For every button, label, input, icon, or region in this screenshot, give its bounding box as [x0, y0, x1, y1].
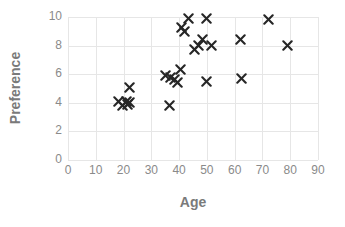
gridline-vertical — [68, 17, 69, 160]
x-axis-tick-label: 80 — [275, 163, 305, 177]
gridline-vertical — [262, 17, 263, 160]
data-point-marker — [235, 34, 246, 45]
data-point-marker — [183, 13, 194, 24]
y-axis-tick-label: 0 — [30, 152, 62, 166]
data-point-marker — [165, 72, 176, 83]
gridline-horizontal — [68, 17, 318, 18]
x-axis-tick-label: 90 — [303, 163, 333, 177]
data-point-marker — [113, 96, 124, 107]
x-axis-tick-label: 60 — [220, 163, 250, 177]
y-axis-tick-label: 10 — [30, 9, 62, 23]
gridline-vertical — [151, 17, 152, 160]
y-axis-tick-label: 8 — [30, 38, 62, 52]
gridline-vertical — [179, 17, 180, 160]
gridline-vertical — [318, 17, 319, 160]
gridline-vertical — [235, 17, 236, 160]
x-axis-tick-label: 50 — [192, 163, 222, 177]
y-axis-title: Preference — [0, 0, 30, 175]
x-axis-title: Age — [68, 194, 318, 210]
y-axis-tick-label: 2 — [30, 123, 62, 137]
data-point-marker — [179, 26, 190, 37]
gridline-horizontal — [68, 74, 318, 75]
gridline-vertical — [290, 17, 291, 160]
gridline-vertical — [124, 17, 125, 160]
x-axis-tick-label: 40 — [164, 163, 194, 177]
data-point-marker — [121, 96, 132, 107]
x-axis-tick-label: 20 — [109, 163, 139, 177]
y-axis-title-label: Preference — [7, 51, 23, 123]
x-axis-tick-label: 10 — [81, 163, 111, 177]
data-point-marker — [117, 100, 128, 111]
data-point-marker — [124, 82, 135, 93]
gridline-vertical — [207, 17, 208, 160]
gridline-horizontal — [68, 131, 318, 132]
data-point-marker — [172, 77, 183, 88]
gridline-horizontal — [68, 46, 318, 47]
gridline-horizontal — [68, 160, 318, 161]
gridline-vertical — [96, 17, 97, 160]
x-axis-tick-label: 30 — [136, 163, 166, 177]
data-point-marker — [164, 100, 175, 111]
data-point-marker — [176, 22, 187, 33]
x-axis-tick-label: 70 — [247, 163, 277, 177]
y-axis-tick-label: 6 — [30, 66, 62, 80]
plot-area — [68, 17, 318, 160]
y-axis-tick-label: 4 — [30, 95, 62, 109]
scatter-chart: Preference Age 0102030405060708090024681… — [0, 0, 345, 227]
gridline-horizontal — [68, 103, 318, 104]
data-point-marker — [263, 14, 274, 25]
data-point-marker — [160, 70, 171, 81]
